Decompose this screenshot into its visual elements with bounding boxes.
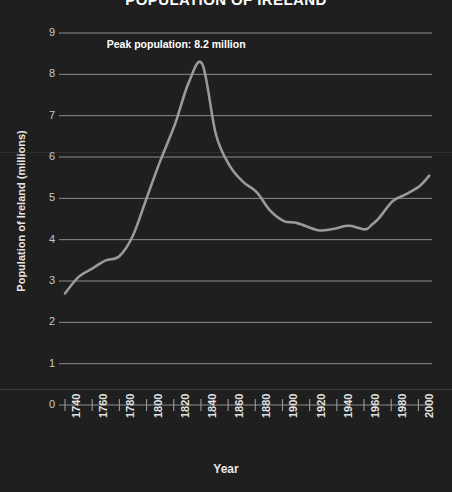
y-tick-label: 2 — [31, 315, 55, 327]
gridlines — [59, 33, 432, 405]
population-line — [65, 62, 429, 294]
y-tick-label: 8 — [31, 67, 55, 79]
x-tick-label: 1820 — [179, 394, 191, 418]
x-tick-label: 1800 — [152, 394, 164, 418]
x-tick-label: 1960 — [369, 394, 381, 418]
peak-population-annotation: Peak population: 8.2 million — [107, 38, 246, 50]
x-tick-label: 1760 — [97, 394, 109, 418]
y-tick-label: 0 — [31, 398, 55, 410]
chart-plot-area — [0, 0, 452, 492]
y-tick-label: 1 — [31, 357, 55, 369]
x-tick-label: 1840 — [206, 394, 218, 418]
y-tick-label: 6 — [31, 150, 55, 162]
x-tick-label: 1920 — [315, 394, 327, 418]
y-tick-label: 9 — [31, 26, 55, 38]
y-tick-label: 7 — [31, 109, 55, 121]
x-tick-label: 1740 — [70, 394, 82, 418]
x-tick-label: 1900 — [287, 394, 299, 418]
x-tick-label: 1860 — [233, 394, 245, 418]
x-tick-label: 1880 — [260, 394, 272, 418]
x-tick-label: 1780 — [124, 394, 136, 418]
y-tick-label: 3 — [31, 274, 55, 286]
y-tick-label: 4 — [31, 233, 55, 245]
x-tick-label: 2000 — [423, 394, 435, 418]
x-tick-label: 1940 — [342, 394, 354, 418]
x-axis-title: Year — [0, 462, 452, 476]
x-tick-label: 1980 — [396, 394, 408, 418]
y-tick-label: 5 — [31, 191, 55, 203]
